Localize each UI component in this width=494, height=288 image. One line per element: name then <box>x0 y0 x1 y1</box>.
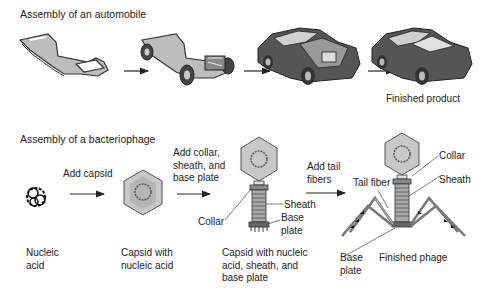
sheath-label: Sheath <box>284 199 316 212</box>
automobile-title: Assembly of an automobile <box>20 8 146 21</box>
step-add-collar-label: Add collar, sheath, and base plate <box>173 147 225 185</box>
phage-collar-label: Collar <box>439 150 465 163</box>
car-open-hood-illustration <box>258 28 360 85</box>
phage-tail-fiber-label: Tail fiber <box>353 177 390 190</box>
bacteriophage-title: Assembly of a bacteriophage <box>20 133 155 146</box>
chassis-with-wheels-illustration <box>141 34 234 85</box>
base-plate-label: Base plate <box>281 212 304 237</box>
phage-without-fibers-illustration <box>225 137 283 232</box>
capsid-with-nucleic-acid-label: Capsid with nucleic acid <box>121 247 173 272</box>
phage-base-plate-label: Base plate <box>340 252 363 277</box>
finished-car-illustration <box>372 28 472 85</box>
finished-product-label: Finished product <box>386 93 460 106</box>
chassis-frame-illustration <box>20 34 108 76</box>
step-add-tail-fibers-label: Add tail fibers <box>307 161 340 186</box>
step-add-capsid-label: Add capsid <box>63 168 112 181</box>
finished-phage-label: Finished phage <box>379 252 447 265</box>
collar-label: Collar <box>198 216 224 229</box>
capsid-sheath-baseplate-label: Capsid with nucleic acid, sheath, and ba… <box>222 247 308 285</box>
capsid-illustration <box>124 170 162 215</box>
nucleic-acid-illustration <box>27 188 45 206</box>
nucleic-acid-label: Nucleic acid <box>26 247 59 272</box>
phage-sheath-label: Sheath <box>439 174 471 187</box>
